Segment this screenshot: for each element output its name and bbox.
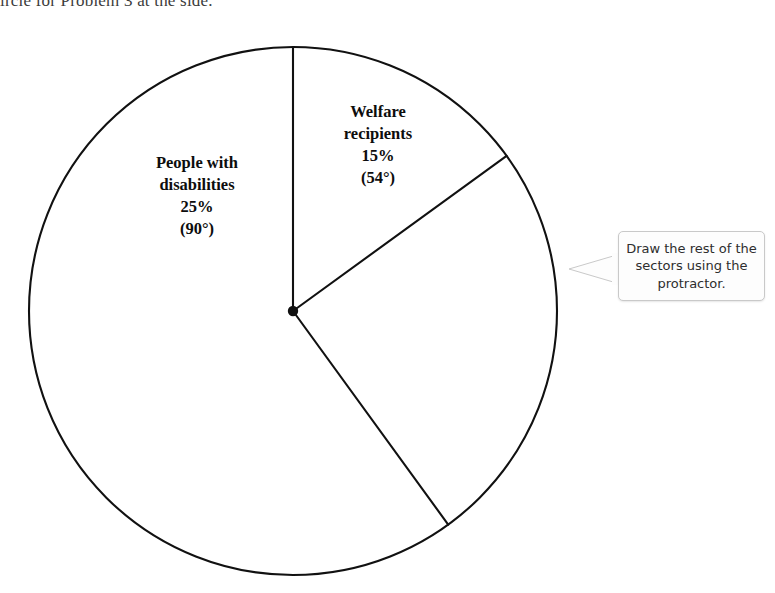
slice-label-percent: 15% bbox=[312, 145, 444, 167]
slice-label-line-1: Welfare bbox=[312, 101, 444, 123]
slice-label-line-2: recipients bbox=[312, 123, 444, 145]
slice-label-percent: 25% bbox=[112, 196, 282, 218]
radius-line-horizontal bbox=[293, 311, 448, 525]
slice-label-degrees: (90°) bbox=[112, 218, 282, 240]
slice-label-degrees: (54°) bbox=[312, 167, 444, 189]
draw-rest-callout: Draw the rest of the sectors using the p… bbox=[618, 231, 765, 301]
slice-label-welfare-recipients: Welfare recipients 15% (54°) bbox=[312, 101, 444, 189]
callout-text: Draw the rest of the sectors using the p… bbox=[619, 240, 764, 293]
slice-label-line-1: People with bbox=[112, 152, 282, 174]
slice-label-line-2: disabilities bbox=[112, 174, 282, 196]
callout-pointer-icon bbox=[568, 252, 622, 286]
slice-label-people-with-disabilities: People with disabilities 25% (90°) bbox=[112, 152, 282, 240]
pie-center-dot bbox=[288, 306, 298, 316]
worksheet-page: ircle for Problem 3 at the side. Draw th… bbox=[0, 0, 775, 593]
